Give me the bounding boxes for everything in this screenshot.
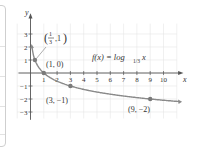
log-chart: 12345678910321−1−2−3 y x ( 1 3 ,1 ) (1, …: [0, 0, 201, 152]
svg-text:4: 4: [82, 76, 86, 84]
func-base: 1/3: [133, 58, 140, 64]
svg-text:10: 10: [160, 76, 168, 84]
svg-text:3: 3: [69, 76, 73, 84]
data-point: [42, 71, 46, 75]
function-label: f(x) = log 1/3 x: [92, 52, 146, 64]
svg-text:−2: −2: [20, 96, 28, 104]
func-var: x: [141, 52, 146, 62]
paren-open: (: [44, 31, 48, 45]
data-point: [148, 97, 152, 101]
y-axis-label: y: [24, 8, 29, 17]
fraction-den: 3: [49, 39, 52, 45]
svg-text:1: 1: [24, 57, 28, 65]
svg-text:9: 9: [148, 76, 152, 84]
point-label-9-neg2: (9, −2): [128, 105, 150, 114]
point-label-1-0: (1, 0): [46, 60, 64, 69]
svg-text:2: 2: [24, 44, 28, 52]
axes: [19, 13, 184, 120]
point-a-y: ,1: [55, 34, 61, 43]
svg-text:3: 3: [24, 31, 28, 39]
svg-text:1: 1: [42, 76, 46, 84]
point-label-one-third: ( 1 3 ,1 ): [36, 31, 67, 59]
svg-text:7: 7: [122, 76, 126, 84]
point-label-3-neg1: (3, −1): [46, 96, 68, 105]
data-point: [68, 84, 72, 88]
svg-text:−3: −3: [20, 109, 28, 117]
paren-close: ): [63, 31, 67, 45]
svg-text:8: 8: [135, 76, 139, 84]
svg-text:−1: −1: [20, 83, 28, 91]
x-axis-label: x: [182, 75, 187, 84]
fraction-num: 1: [49, 31, 52, 37]
svg-text:6: 6: [109, 76, 113, 84]
func-prefix: f(x) = log: [92, 52, 125, 62]
svg-text:5: 5: [95, 76, 99, 84]
